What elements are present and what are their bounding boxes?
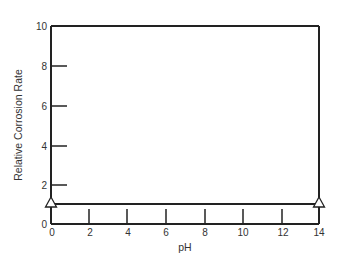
x-tick-labels: 0 2 4 6 8 10 12 14 xyxy=(49,227,325,238)
svg-text:14: 14 xyxy=(313,227,325,238)
y-ticks xyxy=(51,66,67,185)
svg-text:0: 0 xyxy=(49,227,55,238)
svg-text:6: 6 xyxy=(163,227,169,238)
svg-text:2: 2 xyxy=(87,227,93,238)
svg-text:12: 12 xyxy=(277,227,289,238)
svg-text:4: 4 xyxy=(125,227,131,238)
svg-text:0: 0 xyxy=(41,219,47,230)
triangle-marker-icon xyxy=(314,197,325,207)
svg-text:6: 6 xyxy=(41,101,47,112)
svg-text:2: 2 xyxy=(41,180,47,191)
y-tick-labels: 10 8 6 4 2 0 xyxy=(36,21,48,230)
svg-text:10: 10 xyxy=(237,227,249,238)
y-axis-label: Relative Corrosion Rate xyxy=(12,69,24,181)
chart: 10 8 6 4 2 0 0 2 4 6 8 10 12 14 pH Relat… xyxy=(0,0,342,266)
x-ticks xyxy=(89,209,282,224)
x-axis-label: pH xyxy=(178,241,191,253)
triangle-marker-icon xyxy=(46,197,57,207)
svg-text:8: 8 xyxy=(202,227,208,238)
svg-text:8: 8 xyxy=(41,61,47,72)
svg-text:4: 4 xyxy=(41,141,47,152)
svg-text:10: 10 xyxy=(36,21,48,32)
